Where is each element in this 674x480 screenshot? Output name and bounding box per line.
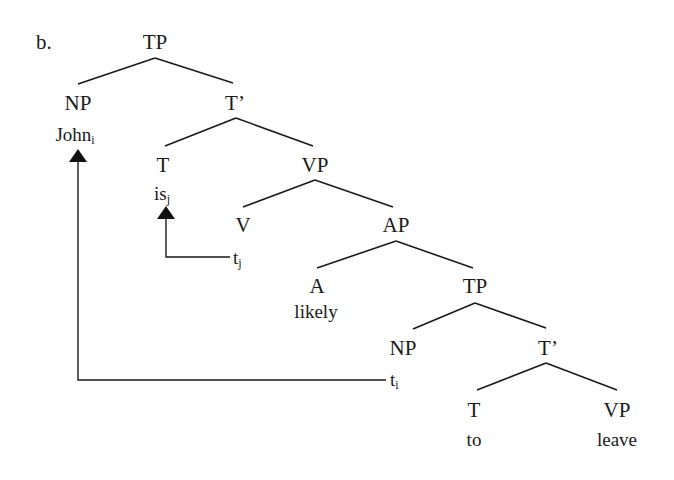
node-t-1: T [157,153,170,177]
edge-tbar-vp [236,118,313,146]
index-i: i [91,133,95,147]
word-john-text: John [55,124,91,145]
movement-arrow-i [78,161,386,380]
edge-vp-ap [315,180,393,207]
edge-ap-tp [396,241,473,268]
arrowhead-up-icon [157,206,175,219]
trace-j: tj [233,247,242,270]
node-tbar-1: T’ [225,91,245,115]
node-t-2: T [468,398,481,422]
trace-i-index: i [395,378,399,392]
edge-tp2-tbar [475,303,546,328]
syntax-tree: b. TP NP Johni T’ T isj VP V tj AP A lik… [0,0,674,480]
edge-tbar-t [165,118,236,146]
edge-ap-a [317,241,396,268]
node-vp-1: VP [302,153,329,177]
trace-i: ti [390,369,399,392]
node-ap: AP [383,213,410,237]
node-v: V [235,213,250,237]
edge-tp2-np [413,303,475,329]
word-is-text: is [154,183,167,204]
word-john: Johni [55,124,95,147]
word-is: isj [154,183,170,206]
node-a: A [309,274,325,298]
node-vp-2: VP [604,398,631,422]
word-to: to [467,429,482,450]
movement-arrow-j [166,218,230,257]
node-np-embedded: NP [390,336,417,360]
edge-tp-tbar [155,58,233,83]
edge-tbar2-vp [546,363,617,390]
node-tp-embedded: TP [463,274,488,298]
node-tbar-2: T’ [538,336,558,360]
trace-j-index: j [237,256,241,270]
node-np-subject: NP [65,91,92,115]
edge-vp-v [243,180,315,207]
example-label: b. [36,30,52,54]
arrowhead-up-icon [69,149,87,162]
word-likely: likely [294,301,338,322]
node-tp-root: TP [143,30,168,54]
word-leave: leave [597,429,637,450]
edge-tp-np [78,58,155,84]
edge-tbar2-t [477,363,546,390]
index-j: j [166,192,170,206]
